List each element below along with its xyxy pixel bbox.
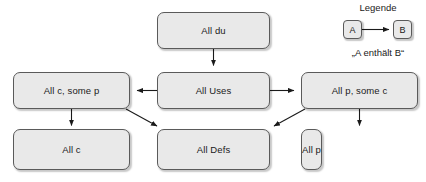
legend-node-a: A: [343, 20, 362, 39]
legend-node-a-label: A: [349, 25, 355, 35]
node-all-c[interactable]: All c: [13, 129, 130, 170]
legend-caption: „A enthält B“: [330, 48, 426, 58]
node-all-defs-label: All Defs: [197, 145, 231, 155]
node-all-p-some-c[interactable]: All p, some c: [301, 72, 418, 109]
node-all-p-label: All p: [302, 145, 321, 155]
node-all-c-some-p[interactable]: All c, some p: [13, 72, 130, 109]
edge-all-p-some-c-to-all-defs: [274, 109, 305, 126]
node-all-p-some-c-label: All p, some c: [332, 86, 388, 96]
node-all-uses[interactable]: All Uses: [157, 72, 270, 109]
legend: Legende A B „A enthält B“: [330, 0, 426, 62]
node-all-c-label: All c: [62, 145, 80, 155]
node-all-c-some-p-label: All c, some p: [44, 86, 100, 96]
diagram-canvas: All du All c, some p All Uses All p, som…: [0, 0, 426, 182]
legend-title: Legende: [330, 3, 426, 13]
node-all-uses-label: All Uses: [196, 86, 232, 96]
node-all-du-label: All du: [201, 26, 225, 36]
node-all-du[interactable]: All du: [157, 12, 270, 49]
node-all-defs[interactable]: All Defs: [157, 129, 270, 170]
edge-all-c-some-p-to-all-defs: [126, 109, 157, 126]
legend-node-b: B: [393, 20, 412, 39]
legend-node-b-label: B: [399, 25, 405, 35]
node-all-p[interactable]: All p: [301, 129, 322, 170]
